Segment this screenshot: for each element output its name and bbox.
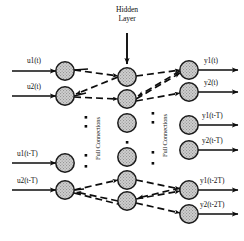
output-label-y2t2T: y2(t-2T) <box>200 201 224 209</box>
input-layer-nodes <box>56 62 74 199</box>
input-node-4 <box>56 181 74 199</box>
input-label-u2tT: u2(t-T) <box>17 177 38 185</box>
neural-network-diagram: Hidden Layer u1(t) u2(t) u1(t-T) u2(t-T)… <box>0 0 244 241</box>
hidden-layer-nodes <box>118 68 136 210</box>
output-node-2 <box>180 83 198 101</box>
hidden-layer-title: Hidden Layer <box>104 6 150 24</box>
hidden-node-6 <box>118 192 136 210</box>
output-label-y2tT: y2(t-T) <box>202 137 223 145</box>
input-node-3 <box>56 154 74 172</box>
input-label-u1t: u1(t) <box>27 57 41 65</box>
hidden-to-output-connections <box>136 70 180 213</box>
hidden-layer-title-line2: Layer <box>104 15 150 24</box>
full-connections-label-right: Full Connections <box>161 114 168 157</box>
hidden-node-2 <box>118 90 136 108</box>
output-label-y2t: y2(t) <box>204 79 218 87</box>
output-label-y1tT: y1(t-T) <box>202 112 223 120</box>
output-node-3 <box>180 116 198 134</box>
output-node-5 <box>180 181 198 199</box>
input-label-u1tT: u1(t-T) <box>17 150 38 158</box>
hidden-node-3 <box>118 114 136 132</box>
input-node-stubs <box>74 69 88 190</box>
output-node-6 <box>180 205 198 223</box>
output-layer-nodes <box>180 61 198 223</box>
output-label-y1t: y1(t) <box>204 57 218 65</box>
input-node-2 <box>56 87 74 105</box>
input-node-1 <box>56 62 74 80</box>
output-node-4 <box>180 141 198 159</box>
hidden-node-1 <box>118 68 136 86</box>
output-label-y1t2T: y1(t-2T) <box>200 177 224 185</box>
output-node-1 <box>180 61 198 79</box>
full-connections-label-left: Full Connections <box>94 117 101 160</box>
hidden-node-4 <box>118 148 136 166</box>
input-label-u2t: u2(t) <box>27 83 41 91</box>
hidden-node-5 <box>118 171 136 189</box>
